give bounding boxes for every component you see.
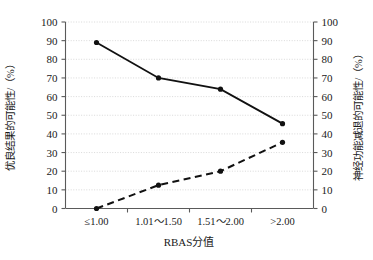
- x-category-label: 1.01～1.50: [135, 216, 182, 227]
- right-tick-label: 80: [322, 53, 334, 65]
- data-point-marker: [94, 40, 99, 45]
- right-tick-label: 20: [322, 165, 334, 177]
- data-point-marker: [156, 183, 161, 188]
- data-point-marker: [218, 169, 223, 174]
- left-tick-label: 100: [41, 16, 58, 28]
- y2-axis-title: 神经功能减退的可能性/（%）: [352, 49, 364, 181]
- right-tick-label: 60: [322, 91, 334, 103]
- left-tick-label: 60: [47, 91, 59, 103]
- right-tick-label: 40: [322, 128, 334, 140]
- x-category-label: 1.51～2.00: [197, 216, 244, 227]
- data-point-marker: [156, 75, 161, 80]
- data-point-marker: [218, 87, 223, 92]
- right-tick-label: 30: [322, 147, 334, 159]
- chart-container: 0102030405060708090100 01020304050607080…: [0, 0, 373, 260]
- left-tick-label: 90: [47, 35, 59, 47]
- right-tick-label: 100: [322, 16, 339, 28]
- right-tick-label: 70: [322, 72, 334, 84]
- left-tick-label: 0: [52, 203, 58, 215]
- chart-plot: 0102030405060708090100 01020304050607080…: [0, 0, 373, 260]
- right-tick-label: 50: [322, 109, 334, 121]
- x-category-label: ≤1.00: [84, 216, 108, 227]
- data-point-marker: [280, 140, 285, 145]
- left-tick-label: 40: [47, 128, 59, 140]
- y-axis-title: 优良结果的可能性/（%）: [4, 59, 16, 171]
- data-point-marker: [280, 121, 285, 126]
- right-tick-label: 90: [322, 35, 334, 47]
- left-tick-label: 10: [47, 184, 59, 196]
- left-tick-label: 70: [47, 72, 59, 84]
- left-tick-label: 80: [47, 53, 59, 65]
- right-tick-label: 0: [322, 203, 328, 215]
- right-tick-label: 10: [322, 184, 334, 196]
- x-axis-title: RBAS分值: [164, 236, 215, 248]
- x-category-label: >2.00: [270, 216, 294, 227]
- data-point-marker: [94, 206, 99, 211]
- left-tick-label: 30: [47, 147, 59, 159]
- left-tick-label: 50: [47, 109, 59, 121]
- left-tick-label: 20: [47, 165, 59, 177]
